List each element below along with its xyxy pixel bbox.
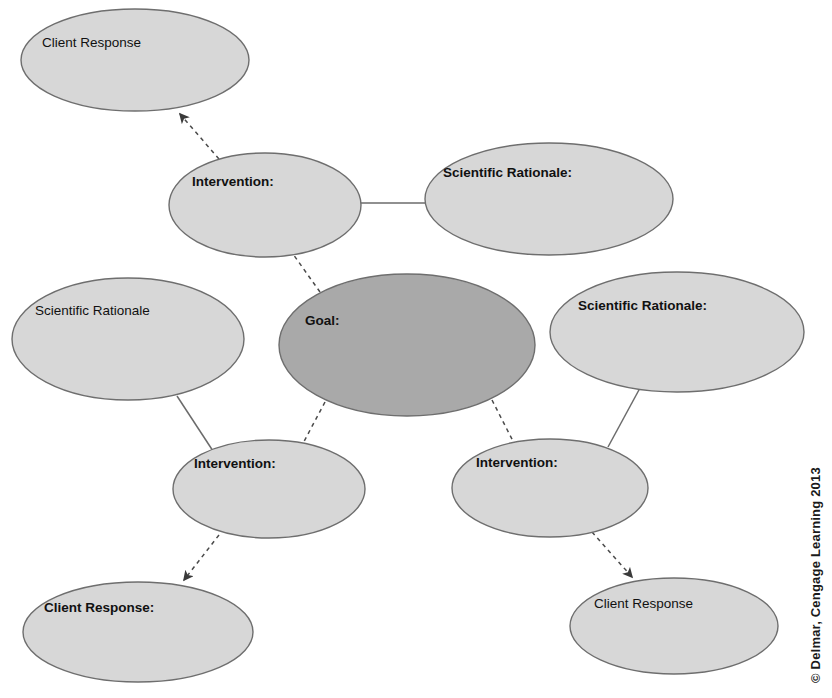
node-client-response-bottom-left[interactable]: Client Response:: [23, 582, 253, 682]
node-shape-client-response-bottom-right: [570, 578, 778, 674]
node-shape-client-response-top-left: [21, 9, 249, 111]
link-goal-to-intervention-bottom-right: [492, 400, 516, 447]
node-client-response-bottom-right[interactable]: Client Response: [570, 578, 778, 674]
node-intervention-bottom-left[interactable]: Intervention:: [173, 440, 365, 538]
link-intervention-bottom-left-to-client-response-bottom-left: [184, 535, 219, 580]
node-label-client-response-top-left: Client Response: [42, 35, 141, 50]
link-rationale-left-to-intervention-bottom-left: [177, 396, 213, 451]
copyright-notice: © Delmar, Cengage Learning 2013: [808, 467, 823, 683]
node-label-intervention-bottom-left: Intervention:: [194, 456, 276, 471]
node-label-goal-center: Goal:: [305, 313, 340, 328]
node-label-intervention-top: Intervention:: [192, 174, 274, 189]
link-rationale-right-to-intervention-bottom-right: [608, 388, 640, 447]
node-label-scientific-rationale-left: Scientific Rationale: [35, 303, 150, 318]
node-shape-client-response-bottom-left: [23, 582, 253, 682]
node-client-response-top-left[interactable]: Client Response: [21, 9, 249, 111]
nodes-layer: Client ResponseIntervention:Scientific R…: [12, 9, 804, 682]
node-label-scientific-rationale-right: Scientific Rationale:: [578, 298, 707, 313]
node-shape-goal-center: [279, 274, 535, 416]
link-goal-to-intervention-bottom-left: [300, 402, 325, 449]
node-label-client-response-bottom-right: Client Response: [594, 596, 693, 611]
link-intervention-top-to-client-response-top-left: [180, 114, 219, 159]
node-scientific-rationale-right[interactable]: Scientific Rationale:: [550, 272, 804, 392]
node-label-scientific-rationale-top-right: Scientific Rationale:: [443, 165, 572, 180]
node-intervention-bottom-right[interactable]: Intervention:: [452, 439, 648, 537]
node-label-client-response-bottom-left: Client Response:: [44, 600, 154, 615]
concept-map-canvas: Client ResponseIntervention:Scientific R…: [0, 0, 832, 698]
node-scientific-rationale-left[interactable]: Scientific Rationale: [12, 278, 244, 400]
node-label-intervention-bottom-right: Intervention:: [476, 455, 558, 470]
node-shape-scientific-rationale-right: [550, 272, 804, 392]
node-goal-center[interactable]: Goal:: [279, 274, 535, 416]
node-intervention-top[interactable]: Intervention:: [169, 153, 361, 257]
node-shape-scientific-rationale-left: [12, 278, 244, 400]
link-intervention-bottom-right-to-client-response-bottom-right: [592, 532, 632, 577]
concept-map-diagram: Client ResponseIntervention:Scientific R…: [0, 0, 832, 698]
node-shape-intervention-top: [169, 153, 361, 257]
node-scientific-rationale-top-right[interactable]: Scientific Rationale:: [425, 143, 673, 255]
node-shape-scientific-rationale-top-right: [425, 143, 673, 255]
